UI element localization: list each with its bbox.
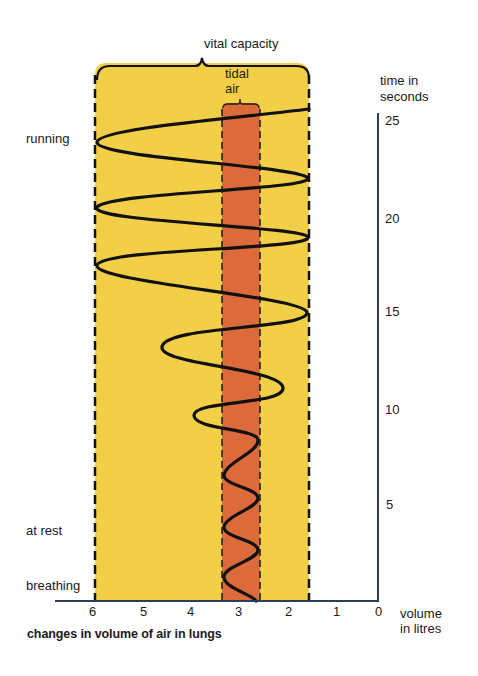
x-tick-0: 0 — [375, 605, 382, 619]
tidal-air-label-line2: air — [225, 81, 239, 96]
time-axis-label-line2: seconds — [380, 89, 428, 104]
x-tick-2: 2 — [285, 605, 292, 619]
tidal-air-label-line1: tidal — [225, 66, 249, 81]
time-axis-label-line1: time in — [380, 73, 418, 88]
x-tick-1: 1 — [333, 605, 340, 619]
x-tick-3: 3 — [235, 605, 242, 619]
x-tick-5: 5 — [140, 605, 147, 619]
y-tick-20: 20 — [385, 212, 399, 226]
y-tick-15: 15 — [385, 305, 399, 319]
y-tick-5: 5 — [386, 498, 393, 512]
y-tick-10: 10 — [385, 403, 399, 417]
breathing-label: breathing — [26, 578, 80, 593]
at-rest-label: at rest — [26, 523, 62, 538]
y-tick-25: 25 — [385, 114, 399, 128]
vital-capacity-label: vital capacity — [204, 36, 278, 51]
running-label: running — [26, 131, 69, 146]
diagram-title: changes in volume of air in lungs — [27, 627, 222, 641]
x-tick-6: 6 — [89, 605, 96, 619]
x-tick-4: 4 — [187, 605, 194, 619]
volume-axis-label-line1: volume — [400, 606, 442, 621]
tidal-air-region — [222, 103, 260, 601]
volume-axis-label-line2: in litres — [400, 621, 441, 636]
